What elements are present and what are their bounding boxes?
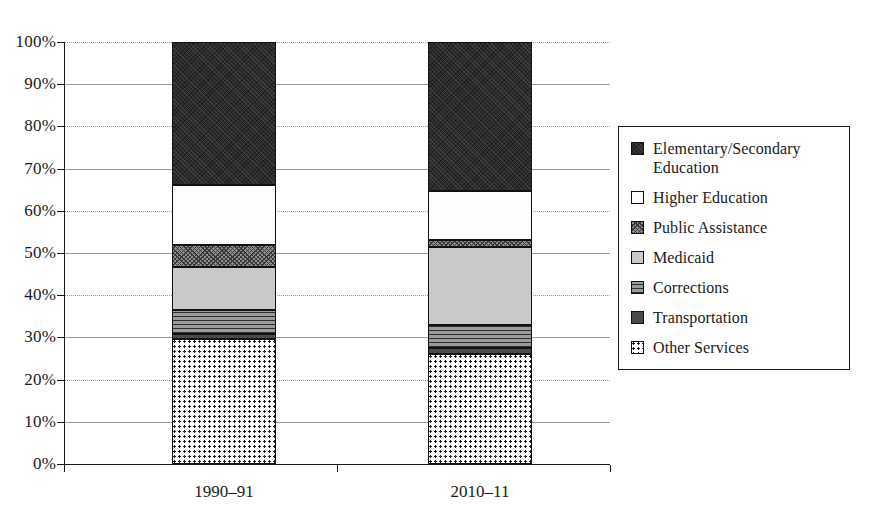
diagonal-crosshatch-icon [631,221,644,234]
bar-segment[interactable] [428,325,532,348]
legend-item[interactable]: Higher Education [631,188,839,207]
bar-segment[interactable] [172,185,276,245]
x-axis-tick [337,465,338,472]
bar-segment[interactable] [428,354,532,464]
legend-item-label: Other Services [653,338,749,357]
y-axis-tick-label: 80% [24,117,56,134]
bar-segment[interactable] [428,240,532,246]
stacked-bar-chart: 0%10%20%30%40%50%60%70%80%90%100% 1990–9… [0,0,882,519]
stacked-bar[interactable] [428,42,532,464]
legend-item-label: Higher Education [653,188,768,207]
legend-item[interactable]: Elementary/Secondary Education [631,139,839,177]
bar-segment[interactable] [172,42,276,185]
y-axis-tick-label: 0% [33,455,56,472]
y-axis-tick-label: 60% [24,202,56,219]
bar-segment[interactable] [428,348,532,354]
bar-segment[interactable] [172,267,276,310]
bar-segment[interactable] [428,191,532,241]
y-axis-tick-label: 70% [24,160,56,177]
dark-gray-icon [631,311,644,324]
bar-segment[interactable] [428,42,532,191]
legend-item-label: Elementary/Secondary Education [653,139,839,177]
bar-segment[interactable] [428,247,532,325]
bar-segment[interactable] [172,334,276,339]
legend-item-label: Medicaid [653,248,714,267]
y-axis-tick-label: 50% [24,244,56,261]
chart-legend: Elementary/Secondary EducationHigher Edu… [618,126,850,370]
x-axis-tick [64,465,65,472]
legend-item[interactable]: Corrections [631,278,839,297]
x-axis-tick-label: 1990–91 [154,482,294,502]
plot-area [64,42,610,464]
legend-item-label: Transportation [653,308,748,327]
dark-crosshatch-icon [631,142,644,155]
y-axis-tick-label: 40% [24,286,56,303]
bar-segment[interactable] [172,245,276,266]
legend-item[interactable]: Other Services [631,338,839,357]
y-axis-tick-label: 10% [24,413,56,430]
bar-segment[interactable] [172,339,276,464]
x-axis-tick-label: 2010–11 [410,482,550,502]
stacked-bar[interactable] [172,42,276,464]
x-axis-tick [610,465,611,472]
y-axis-tick-label: 20% [24,371,56,388]
legend-item-label: Public Assistance [653,218,767,237]
legend-item[interactable]: Public Assistance [631,218,839,237]
y-axis-tick-label: 90% [24,75,56,92]
light-gray-icon [631,251,644,264]
bar-segment[interactable] [172,310,276,334]
y-axis-tick-label: 30% [24,328,56,345]
legend-item-label: Corrections [653,278,729,297]
white-icon [631,191,644,204]
legend-item[interactable]: Transportation [631,308,839,327]
horizontal-lines-icon [631,281,644,294]
y-axis-tick-label: 100% [16,33,56,50]
legend-item[interactable]: Medicaid [631,248,839,267]
dotted-icon [631,341,644,354]
